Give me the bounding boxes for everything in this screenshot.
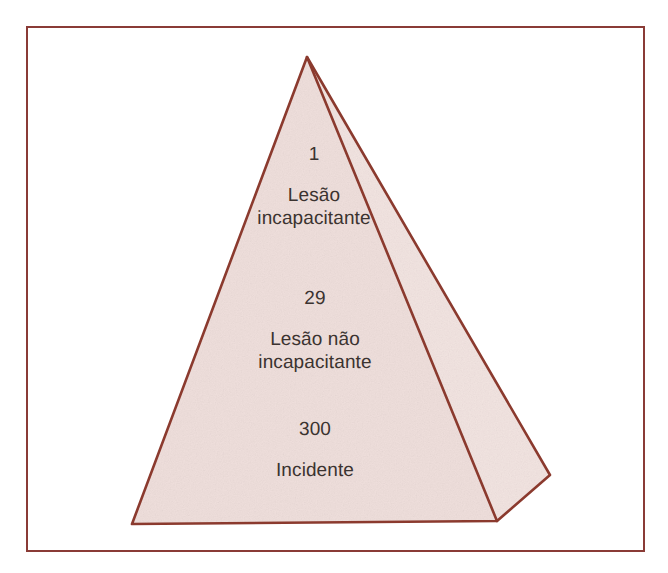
tier-top-value: 1 (228, 143, 400, 166)
pyramid-tier-bottom: 300 Incidente (225, 399, 405, 501)
tier-bottom-label: Incidente (225, 459, 405, 482)
tier-top-label: Lesão incapacitante (228, 184, 400, 230)
pyramid-tier-middle: 29 Lesão não incapacitante (215, 268, 415, 393)
tier-middle-label: Lesão não incapacitante (215, 328, 415, 374)
figure-root: 1 Lesão incapacitante 29 Lesão não incap… (0, 0, 668, 573)
tier-bottom-value: 300 (225, 418, 405, 441)
tier-middle-value: 29 (215, 287, 415, 310)
pyramid-tier-top: 1 Lesão incapacitante (228, 124, 400, 249)
